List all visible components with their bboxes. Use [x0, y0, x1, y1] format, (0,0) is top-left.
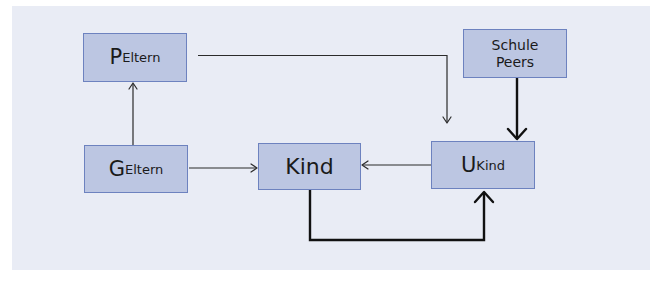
- node-schule-peers-line2: Peers: [496, 54, 534, 71]
- node-kind: Kind: [258, 143, 361, 190]
- node-kind-label: Kind: [285, 154, 333, 179]
- node-u-kind-sub: Kind: [476, 158, 505, 173]
- node-g-eltern-sub: Eltern: [125, 162, 163, 177]
- node-schule-peers-line1: Schule: [492, 37, 539, 54]
- node-g-eltern-main: G: [109, 159, 125, 180]
- node-schule-peers: Schule Peers: [463, 29, 567, 78]
- node-p-eltern-main: P: [110, 47, 123, 68]
- node-p-eltern-sub: Eltern: [122, 50, 160, 65]
- node-g-eltern: GEltern: [84, 145, 188, 193]
- node-p-eltern: PEltern: [83, 33, 187, 82]
- node-u-kind: UKind: [431, 141, 535, 189]
- node-u-kind-main: U: [461, 155, 476, 176]
